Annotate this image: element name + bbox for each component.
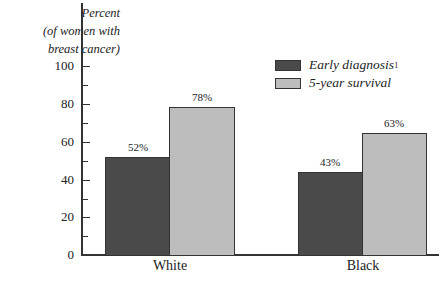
value-label: 43% [300,156,360,168]
legend-label: 5-year survival [309,75,391,91]
bar-black-early-diagnosis [298,172,364,256]
bar-white-early-diagnosis [105,157,171,256]
y-axis-title: Percent (of women with breast cancer) [0,4,120,58]
value-label: 63% [364,117,424,129]
y-tick-label: 40 [44,172,74,188]
y-tick-label: 100 [44,58,74,74]
footnote-marker: 1 [394,61,398,70]
y-minor-tick [83,161,88,162]
y-tick [83,104,90,105]
y-axis-line [81,3,83,256]
y-tick-label: 0 [44,247,74,263]
y-axis-title-line: breast cancer) [0,40,120,58]
bar-white-5yr-survival [169,107,235,256]
legend-item-5yr-survival: 5-year survival [275,76,398,90]
y-tick [83,217,90,218]
y-minor-tick [83,85,88,86]
y-tick [83,142,90,143]
value-label: 52% [108,141,168,153]
legend-swatch [275,60,301,71]
y-axis-title-line: (of women with [0,22,120,40]
y-tick [83,66,90,67]
y-axis-title-line: Percent [0,4,120,22]
y-tick-label: 80 [44,96,74,112]
legend: Early diagnosis1 5-year survival [275,58,398,90]
bar-black-5yr-survival [362,133,427,256]
legend-item-early-diagnosis: Early diagnosis1 [275,58,398,72]
value-label: 78% [172,91,232,103]
x-category-label: White [110,258,230,274]
legend-label: Early diagnosis [309,57,394,73]
legend-swatch [275,78,301,89]
y-minor-tick [83,199,88,200]
y-tick-label: 60 [44,134,74,150]
y-minor-tick [83,236,88,237]
y-tick [83,180,90,181]
y-tick-label: 20 [44,209,74,225]
x-category-label: Black [303,258,423,274]
y-minor-tick [83,123,88,124]
